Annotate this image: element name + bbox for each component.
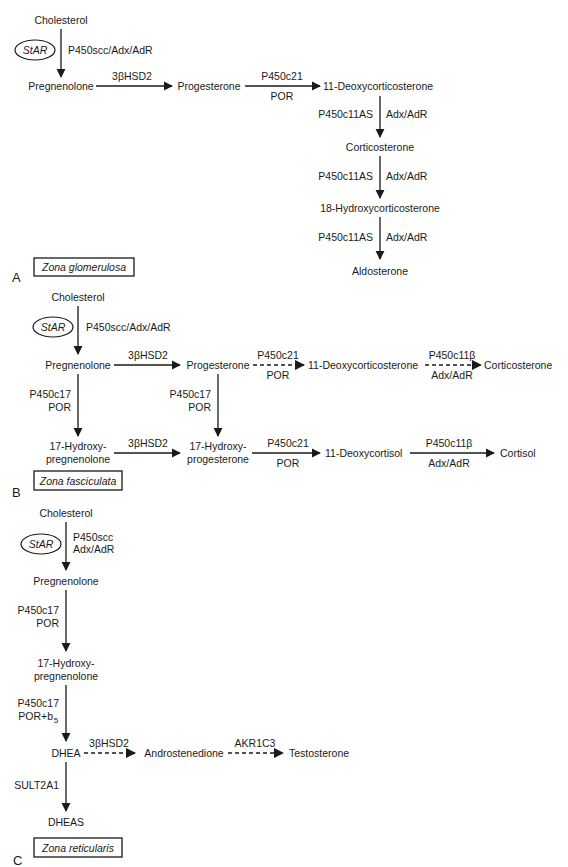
a-adx-2: Adx/AdR <box>386 170 428 182</box>
b-c21-2: P450c21 <box>267 437 309 449</box>
b-c11b-2: P450c11β <box>426 437 473 449</box>
a-18-hydroxycorticosterone: 18-Hydroxycorticosterone <box>320 202 440 214</box>
c-c17-1: P450c17 <box>18 604 60 616</box>
panel-a: Cholesterol StAR P450scc/Adx/AdR Pregnen… <box>12 14 440 285</box>
c-zone-label: Zona reticularis <box>41 842 115 854</box>
c-scc-enzyme-1: P450scc <box>73 531 113 543</box>
c-dhea: DHEA <box>51 747 80 759</box>
c-testosterone: Testosterone <box>289 747 349 759</box>
a-c11as-2: P450c11AS <box>318 170 373 182</box>
b-c17-2: P450c17 <box>170 388 212 400</box>
c-c17-2: P450c17 <box>18 697 60 709</box>
a-c21: P450c21 <box>261 70 303 82</box>
steroidogenesis-diagram: Cholesterol StAR P450scc/Adx/AdR Pregnen… <box>0 0 568 867</box>
b-pregnenolone: Pregnenolone <box>45 359 111 371</box>
c-scc-enzyme-2: Adx/AdR <box>73 543 115 555</box>
panel-b: Cholesterol StAR P450scc/Adx/AdR Pregnen… <box>12 291 552 500</box>
panel-c: Cholesterol StAR P450scc Adx/AdR Pregnen… <box>13 507 349 867</box>
a-c21-cofactor: POR <box>271 90 294 102</box>
b-c21-2-cofactor: POR <box>277 457 300 469</box>
b-deoxycortisol: 11-Deoxycortisol <box>325 447 402 459</box>
b-c17-1: P450c17 <box>30 388 72 400</box>
c-androstenedione: Androstenedione <box>144 747 224 759</box>
b-cholesterol: Cholesterol <box>51 291 104 303</box>
a-adx-1: Adx/AdR <box>386 108 428 120</box>
b-c17-1-cofactor: POR <box>48 401 71 413</box>
c-dheas: DHEAS <box>48 816 84 828</box>
a-hsd: 3βHSD2 <box>112 70 152 82</box>
b-oh-preg-2: pregnenolone <box>46 453 110 465</box>
b-oh-preg-1: 17-Hydroxy- <box>49 440 107 452</box>
c-hsd: 3βHSD2 <box>89 737 129 749</box>
b-c21-1: P450c21 <box>257 349 299 361</box>
a-pregnenolone: Pregnenolone <box>28 80 94 92</box>
b-scc-enzyme: P450scc/Adx/AdR <box>86 321 171 333</box>
a-panel-letter: A <box>12 270 21 285</box>
a-adx-3: Adx/AdR <box>386 231 428 243</box>
b-c11b-1: P450c11β <box>429 349 476 361</box>
c-cholesterol: Cholesterol <box>39 507 92 519</box>
a-progesterone: Progesterone <box>177 80 240 92</box>
b-c21-1-cofactor: POR <box>267 369 290 381</box>
c-pregnenolone: Pregnenolone <box>33 575 99 587</box>
a-corticosterone: Corticosterone <box>346 141 414 153</box>
c-c17-1-cofactor: POR <box>36 617 59 629</box>
c-akr: AKR1C3 <box>235 737 276 749</box>
a-c11as-3: P450c11AS <box>318 231 373 243</box>
b-corticosterone: Corticosterone <box>484 359 552 371</box>
c-panel-letter: C <box>13 853 22 867</box>
c-c17-2-cofactor: POR+b <box>18 710 53 722</box>
a-star: StAR <box>23 44 48 56</box>
b-oh-prog-1: 17-Hydroxy- <box>189 440 247 452</box>
b-progesterone: Progesterone <box>186 359 249 371</box>
a-aldosterone: Aldosterone <box>352 265 408 277</box>
c-oh-preg-2: pregnenolone <box>34 670 98 682</box>
a-scc-enzyme: P450scc/Adx/AdR <box>68 44 153 56</box>
a-doc: 11-Deoxycorticosterone <box>323 80 433 92</box>
b-c17-2-cofactor: POR <box>188 401 211 413</box>
b-cortisol: Cortisol <box>500 447 536 459</box>
b-panel-letter: B <box>12 485 21 500</box>
b-hsd-2: 3βHSD2 <box>128 437 168 449</box>
b-hsd-1: 3βHSD2 <box>128 349 168 361</box>
b-zone-label: Zona fasciculata <box>39 475 117 487</box>
b-c11b-2-cofactor: Adx/AdR <box>428 457 470 469</box>
a-cholesterol: Cholesterol <box>34 14 87 26</box>
b-star: StAR <box>41 321 66 333</box>
c-oh-preg-1: 17-Hydroxy- <box>37 657 95 669</box>
b-oh-prog-2: progesterone <box>187 453 249 465</box>
c-c17-2-cofactor-subscript: 5 <box>54 716 59 725</box>
b-doc: 11-Deoxycorticosterone <box>308 359 418 371</box>
c-sult: SULT2A1 <box>14 779 59 791</box>
c-star: StAR <box>29 538 54 550</box>
a-zone-label: Zona glomerulosa <box>41 261 126 273</box>
a-c11as-1: P450c11AS <box>318 108 373 120</box>
b-c11b-1-cofactor: Adx/AdR <box>431 369 473 381</box>
